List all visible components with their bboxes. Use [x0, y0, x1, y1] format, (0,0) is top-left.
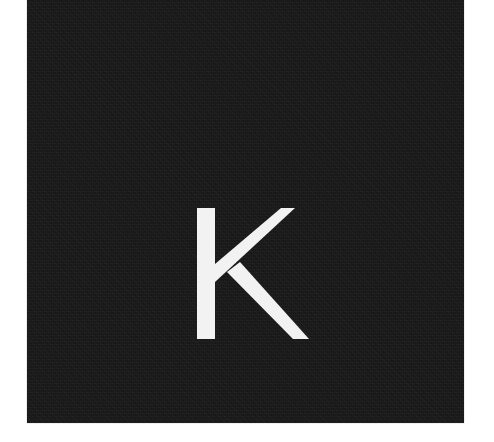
letter-k-glyph: K	[193, 190, 313, 350]
k-shape-icon	[193, 190, 313, 350]
